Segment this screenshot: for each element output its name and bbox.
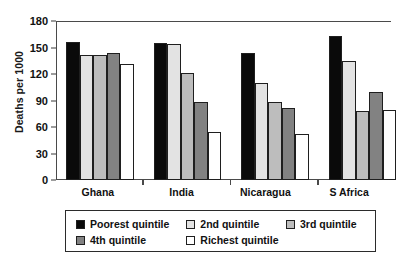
- bar: [120, 64, 134, 180]
- bar-group-nicaragua: [231, 21, 319, 180]
- bar: [383, 110, 397, 180]
- y-tick-label: 60: [36, 121, 48, 133]
- bar: [167, 44, 181, 180]
- swatch-4th-icon: [76, 236, 85, 245]
- y-tick-label: 0: [42, 174, 48, 186]
- bar: [80, 55, 94, 180]
- legend-label: Richest quintile: [200, 234, 278, 246]
- legend-label: 4th quintile: [90, 234, 146, 246]
- bar: [107, 53, 121, 180]
- chart-legend: Poorest quintile 2nd quintile 3rd quinti…: [65, 210, 376, 252]
- x-tick-label: Ghana: [56, 186, 140, 198]
- x-tick-mark: [142, 180, 143, 185]
- y-tick-label: 120: [30, 68, 48, 80]
- x-tick-mark: [317, 180, 318, 185]
- legend-item-poorest-quintile: Poorest quintile: [76, 218, 186, 230]
- x-tick-label: Nicaragua: [224, 186, 308, 198]
- bar: [66, 42, 80, 180]
- legend-item-3rd-quintile: 3rd quintile: [286, 218, 375, 230]
- y-tick-label: 150: [30, 42, 48, 54]
- legend-label: Poorest quintile: [90, 218, 169, 230]
- swatch-richest-icon: [186, 236, 195, 245]
- swatch-poorest-icon: [76, 220, 85, 229]
- bar: [342, 61, 356, 180]
- plot-area: Deaths per 1000 1801501209060300 GhanaIn…: [0, 0, 399, 200]
- legend-item-2nd-quintile: 2nd quintile: [186, 218, 286, 230]
- bar-chart-figure: Deaths per 1000 1801501209060300 GhanaIn…: [0, 0, 399, 264]
- x-tick-label: India: [140, 186, 224, 198]
- bar: [282, 108, 296, 180]
- swatch-3rd-icon: [286, 220, 295, 229]
- y-tick-label: 30: [36, 148, 48, 160]
- x-tick-mark: [230, 180, 231, 185]
- bar: [93, 55, 107, 180]
- legend-row-1: Poorest quintile 2nd quintile 3rd quinti…: [76, 216, 375, 232]
- bar: [268, 102, 282, 180]
- bar: [181, 73, 195, 180]
- bar-group-india: [144, 21, 232, 180]
- x-tick-label: S Africa: [307, 186, 391, 198]
- legend-item-richest-quintile: Richest quintile: [186, 234, 286, 246]
- bar: [208, 132, 222, 180]
- y-tick-label: 90: [36, 95, 48, 107]
- bar: [295, 134, 309, 180]
- legend-label: 3rd quintile: [300, 218, 357, 230]
- bar-group-s-africa: [319, 21, 399, 180]
- y-tick-label: 180: [30, 15, 48, 27]
- bar: [255, 83, 269, 180]
- bars-layer: [56, 21, 391, 180]
- legend-label: 2nd quintile: [200, 218, 259, 230]
- bar-group-ghana: [56, 21, 144, 180]
- swatch-2nd-icon: [186, 220, 195, 229]
- bar: [194, 102, 208, 180]
- legend-row-2: 4th quintile Richest quintile: [76, 232, 375, 248]
- x-axis-tick-labels: GhanaIndiaNicaraguaS Africa: [56, 186, 391, 198]
- bar: [154, 43, 168, 180]
- bar: [369, 92, 383, 180]
- y-axis-tick-labels: 1801501209060300: [0, 15, 56, 187]
- bar: [329, 36, 343, 180]
- legend-item-4th-quintile: 4th quintile: [76, 234, 186, 246]
- bar: [356, 111, 370, 180]
- bar: [241, 53, 255, 180]
